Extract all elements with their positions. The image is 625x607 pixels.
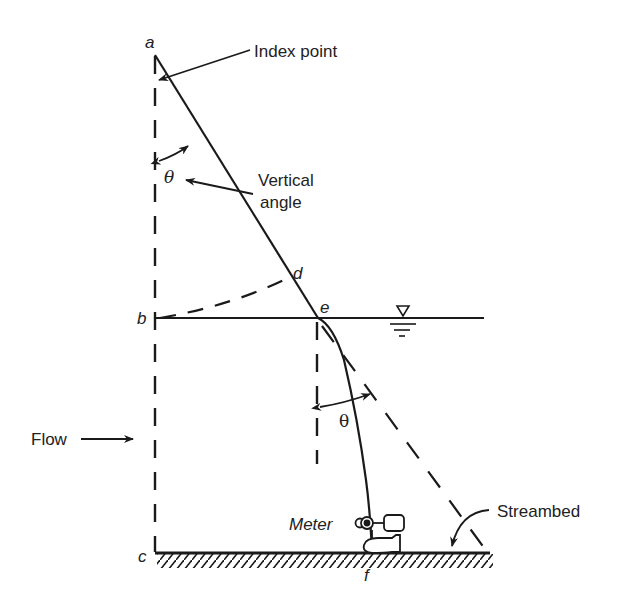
sounding-line-diagram: a b c d e f θ θ Index point Vertical ang…	[0, 0, 625, 607]
vertical-angle-arrow	[186, 180, 253, 194]
streambed-label: Streambed	[497, 502, 580, 521]
label-c: c	[138, 547, 147, 566]
streambed	[155, 553, 493, 568]
theta-arrow-upper	[159, 146, 188, 161]
label-a: a	[145, 33, 154, 52]
index-point-arrow	[159, 50, 250, 80]
meter-label: Meter	[289, 515, 334, 534]
label-f: f	[364, 566, 371, 585]
theta-arrow-lower	[320, 394, 370, 407]
water-surface-symbol	[390, 306, 416, 336]
current-meter-icon	[356, 515, 405, 553]
vertical-angle-label-line2: angle	[260, 193, 302, 212]
streambed-arrow	[452, 510, 489, 546]
arc-b-to-d	[160, 276, 292, 318]
theta-label-upper: θ	[164, 167, 174, 187]
label-b: b	[137, 309, 146, 328]
vertical-angle-label-line1: Vertical	[258, 171, 314, 190]
theta-label-lower: θ	[339, 411, 349, 431]
label-d: d	[293, 264, 303, 283]
label-e: e	[320, 298, 329, 317]
flow-label: Flow	[31, 430, 68, 449]
index-point-label: Index point	[254, 42, 337, 61]
